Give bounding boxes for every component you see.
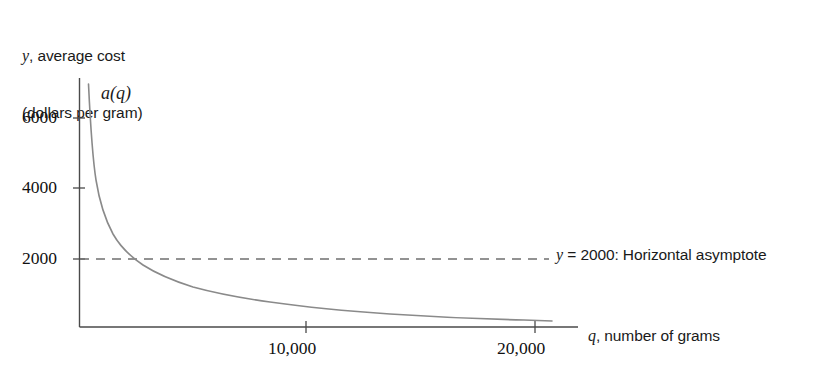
x-axis-title-text: , number of grams xyxy=(596,327,720,344)
x-axis-symbol: q xyxy=(588,327,596,344)
x-tick-label-10000: 10,000 xyxy=(268,338,316,359)
y-tick-label-4000: 4000 xyxy=(22,177,57,198)
y-tick-label-6000: 6000 xyxy=(22,107,57,128)
y-tick-label-2000: 2000 xyxy=(22,248,57,269)
asymptote-symbol: y xyxy=(556,246,563,263)
plot-canvas xyxy=(0,0,824,378)
x-tick-label-20000: 20,000 xyxy=(497,338,545,359)
average-cost-curve xyxy=(89,84,553,321)
figure-average-cost-chart: y, average cost (dollars per gram) a(q) … xyxy=(0,0,824,378)
asymptote-annotation-text: = 2000: Horizontal asymptote xyxy=(563,246,766,263)
asymptote-annotation: y = 2000: Horizontal asymptote xyxy=(556,246,766,264)
curve-label-aq: a(q) xyxy=(101,83,131,104)
x-axis-title: q, number of grams xyxy=(588,327,720,345)
